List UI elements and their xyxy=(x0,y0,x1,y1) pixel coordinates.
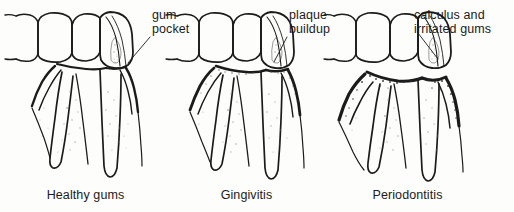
annotation-plaque-buildup-line1: plaque xyxy=(289,9,330,23)
caption-gingivitis: Gingivitis xyxy=(161,188,332,202)
annotation-plaque-buildup-line2: buildup xyxy=(289,23,330,37)
annotation-plaque-buildup: plaque buildup xyxy=(289,9,330,36)
annotation-gum-pocket-line2: pocket xyxy=(152,23,189,37)
gum-disease-figure: Healthy gums xyxy=(0,0,514,212)
caption-periodontitis: Periodontitis xyxy=(322,188,493,202)
annotation-calculus-line2: irritated gums xyxy=(414,23,491,37)
annotation-calculus-irritated-gums: calculus and irritated gums xyxy=(414,9,491,36)
panel-healthy-gums: Healthy gums xyxy=(0,0,171,212)
healthy-gums-illustration xyxy=(0,0,171,212)
caption-healthy-gums: Healthy gums xyxy=(0,188,171,202)
annotation-calculus-line1: calculus and xyxy=(414,9,491,23)
annotation-gum-pocket: gum pocket xyxy=(152,9,189,36)
annotation-gum-pocket-line1: gum xyxy=(152,9,189,23)
